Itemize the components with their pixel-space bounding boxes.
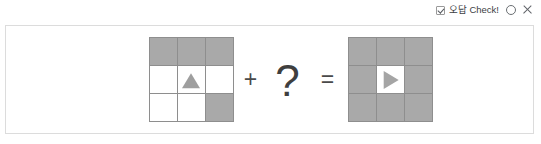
grid-cell [178, 66, 205, 93]
unknown-operand-question-mark[interactable]: ? [268, 59, 308, 103]
grid-cell [377, 38, 404, 65]
question-panel: + ? = [5, 25, 534, 134]
wrong-answer-check-label: 오답 Check! [449, 5, 499, 15]
grid-cell [405, 94, 432, 121]
result-grid [348, 37, 433, 122]
grid-cell [150, 66, 177, 93]
equals-operator: = [308, 68, 348, 91]
grid-cell [206, 94, 233, 121]
plus-operator: + [234, 68, 268, 91]
wrong-answer-check-control[interactable]: 오답 Check! [436, 5, 499, 15]
circle-icon[interactable] [506, 5, 516, 15]
grid-cell [349, 66, 376, 93]
triangle-right-icon [384, 71, 399, 89]
grid-cell [405, 38, 432, 65]
grid-cell [405, 66, 432, 93]
close-icon[interactable] [522, 5, 533, 16]
grid-cell [178, 38, 205, 65]
header-toolbar: 오답 Check! [0, 0, 541, 20]
grid-cell [377, 66, 404, 93]
grid-cell [377, 94, 404, 121]
grid-cell [150, 38, 177, 65]
grid-cell [349, 94, 376, 121]
grid-cell [206, 38, 233, 65]
grid-cell [349, 38, 376, 65]
first-operand-grid [149, 37, 234, 122]
checkbox-checked-icon[interactable] [436, 6, 445, 15]
grid-cell [150, 94, 177, 121]
grid-cell [206, 66, 233, 93]
grid-cell [178, 94, 205, 121]
triangle-up-icon [182, 73, 200, 88]
equation-row: + ? = [6, 26, 533, 133]
